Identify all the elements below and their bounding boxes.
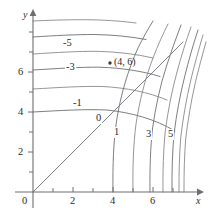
- x-tick-group: [53, 187, 173, 192]
- contour-curve-neg3: [33, 67, 160, 76]
- x-axis-label: x: [196, 196, 200, 206]
- y-axis-label: y: [23, 10, 27, 20]
- y-tick-label-2: 2: [18, 147, 23, 158]
- marked-point-dot: [108, 61, 111, 64]
- contour-label-pos5: 5: [167, 129, 174, 140]
- x-tick-label-6: 6: [150, 196, 155, 207]
- positive-contour-group: [113, 21, 206, 192]
- contour-curve-neg6: [33, 20, 136, 23]
- origin-tick-label: 0: [22, 196, 27, 207]
- contour-curve-zero: [33, 42, 183, 192]
- contour-curve-pos3: [150, 25, 181, 192]
- contour-label-neg5: -5: [62, 38, 73, 49]
- contour-curve-neg2: [33, 86, 167, 100]
- contour-label-pos1: 1: [113, 127, 120, 138]
- zero-contour-group: [33, 42, 183, 192]
- contour-curve-neg5: [33, 35, 146, 40]
- contour-curve-pos6: [179, 35, 203, 192]
- contour-curve-pos4: [163, 27, 191, 192]
- marked-point-label: (4, 6): [114, 57, 136, 67]
- y-tick-label-4: 4: [18, 107, 23, 118]
- contour-label-pos3: 3: [145, 129, 152, 140]
- contour-label-neg3: -3: [65, 62, 76, 73]
- y-tick-group: [28, 32, 33, 172]
- x-tick-label-2: 2: [70, 196, 75, 207]
- y-axis-arrow-icon: [30, 9, 37, 16]
- y-tick-label-6: 6: [18, 67, 23, 78]
- contour-plot-figure: y x 0 2 4 6 2 4 6 -5 -3 -1 0 1 3 5 (4, 6…: [0, 0, 209, 221]
- plot-canvas: [0, 0, 209, 221]
- contour-label-zero: 0: [95, 113, 102, 124]
- negative-contour-group: [33, 20, 175, 131]
- x-tick-label-4: 4: [110, 196, 115, 207]
- contour-label-neg1: -1: [72, 98, 83, 109]
